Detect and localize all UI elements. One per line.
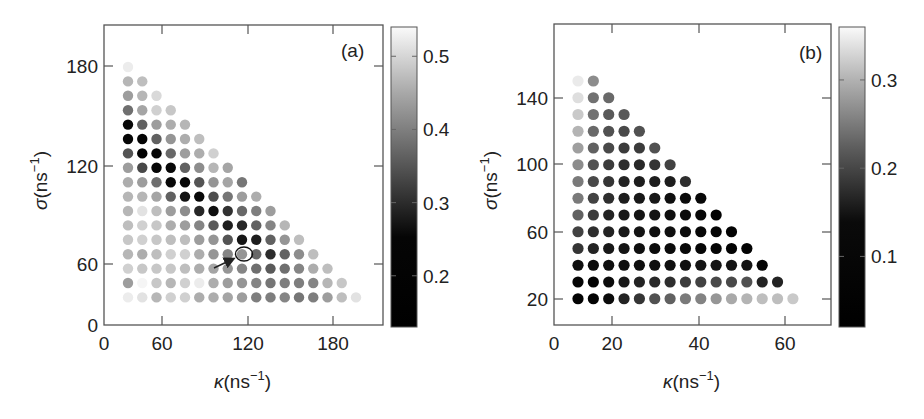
data-point [208, 249, 218, 259]
data-point [618, 109, 629, 120]
data-point [223, 177, 233, 187]
x-tick-label: 60 [774, 333, 795, 354]
data-point [123, 163, 133, 173]
data-point [223, 206, 233, 216]
data-point [166, 105, 176, 115]
y-tick-label: 60 [77, 254, 98, 275]
data-point [649, 226, 660, 237]
data-point [151, 206, 161, 216]
data-point [208, 292, 218, 302]
data-point [572, 209, 583, 220]
data-point [603, 142, 614, 153]
data-point [166, 278, 176, 288]
data-point [726, 260, 737, 271]
data-point [237, 278, 247, 288]
data-point [665, 226, 676, 237]
colorbar-tick-label: 0.5 [423, 46, 449, 67]
data-point [166, 134, 176, 144]
data-point [603, 293, 614, 304]
data-point [151, 292, 161, 302]
data-point [572, 75, 583, 86]
data-point [223, 235, 233, 245]
data-point [251, 263, 261, 273]
data-point [208, 163, 218, 173]
data-point [680, 209, 691, 220]
data-point [123, 134, 133, 144]
data-point [665, 176, 676, 187]
x-tick-label: 0 [99, 333, 110, 354]
data-point [588, 159, 599, 170]
y-axis-label-b: σ(ns−1) [477, 151, 501, 210]
data-point [137, 263, 147, 273]
data-point [123, 91, 133, 101]
data-point [137, 163, 147, 173]
data-point [194, 163, 204, 173]
data-point [711, 276, 722, 287]
data-point [194, 191, 204, 201]
x-tick-label: 40 [688, 333, 709, 354]
x-axis-label-b: κ(ns−1) [663, 368, 720, 392]
data-point [151, 119, 161, 129]
data-point [123, 177, 133, 187]
data-point [251, 206, 261, 216]
data-point [280, 220, 290, 230]
data-point [194, 292, 204, 302]
data-point [588, 92, 599, 103]
data-point [634, 226, 645, 237]
data-point [588, 176, 599, 187]
data-point [337, 278, 347, 288]
data-point [322, 263, 332, 273]
data-point [180, 292, 190, 302]
data-point [137, 134, 147, 144]
data-point [665, 243, 676, 254]
data-point [180, 163, 190, 173]
data-point [572, 260, 583, 271]
data-point [572, 126, 583, 137]
data-point [695, 260, 706, 271]
data-point [123, 119, 133, 129]
data-point [588, 243, 599, 254]
data-point [603, 209, 614, 220]
data-point [665, 293, 676, 304]
data-point [618, 260, 629, 271]
data-point [603, 176, 614, 187]
data-point [572, 243, 583, 254]
data-point [123, 76, 133, 86]
data-point [603, 226, 614, 237]
data-point [572, 226, 583, 237]
data-point [588, 126, 599, 137]
x-tick-label: 20 [601, 333, 622, 354]
panel-label-a: (a) [341, 40, 364, 61]
data-point [123, 292, 133, 302]
data-point [194, 263, 204, 273]
data-point [208, 191, 218, 201]
data-point [680, 243, 691, 254]
data-point [166, 177, 176, 187]
y-tick-label: 100 [516, 154, 548, 175]
data-point [166, 292, 176, 302]
data-point [603, 159, 614, 170]
data-point [251, 191, 261, 201]
data-point [180, 206, 190, 216]
data-point [166, 206, 176, 216]
data-point [337, 292, 347, 302]
data-point [680, 276, 691, 287]
data-point [208, 148, 218, 158]
data-point [572, 176, 583, 187]
data-point [572, 92, 583, 103]
y-tick-label: 140 [516, 88, 548, 109]
panel-b: 02040602060100140 (b) κ(ns−1) σ(ns−1) 0.… [477, 24, 897, 392]
data-point [208, 177, 218, 187]
x-tick-label: 120 [232, 333, 264, 354]
data-point [223, 249, 233, 259]
data-point [603, 109, 614, 120]
colorbar-tick-label: 0.4 [423, 119, 450, 140]
data-point [151, 148, 161, 158]
data-point [322, 292, 332, 302]
data-point [151, 105, 161, 115]
data-point [166, 163, 176, 173]
data-point [166, 148, 176, 158]
data-point [572, 193, 583, 204]
data-point [280, 278, 290, 288]
data-point [649, 193, 660, 204]
